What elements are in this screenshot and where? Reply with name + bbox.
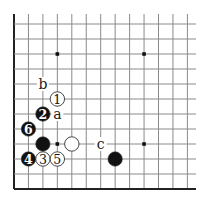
- letter-mark-a: a: [51, 106, 63, 122]
- move-number-label: 6: [24, 122, 33, 137]
- move-number-label: 2: [39, 107, 48, 122]
- black-stone-4: 4: [21, 152, 35, 167]
- go-board-diagram: abc 123456: [0, 0, 206, 206]
- letter-mark-b: b: [37, 76, 49, 92]
- letter-mark-label: c: [97, 136, 105, 152]
- move-number-label: 1: [53, 92, 61, 107]
- black-stone-2: 2: [36, 107, 50, 122]
- move-number-label: 4: [24, 152, 33, 167]
- stone-circle-icon: [36, 137, 50, 151]
- letter-mark-label: a: [53, 106, 61, 122]
- star-point-icon: [56, 142, 60, 146]
- move-number-label: 3: [39, 152, 47, 167]
- letter-mark-label: b: [38, 76, 47, 92]
- white-stone-3: 3: [36, 152, 50, 167]
- star-point-icon: [56, 52, 60, 56]
- stone-circle-icon: [65, 137, 79, 151]
- stone-circle-icon: [108, 152, 122, 166]
- star-point-icon: [142, 142, 146, 146]
- black-stone-6: 6: [21, 122, 35, 137]
- black-stone: [108, 152, 122, 166]
- black-stone: [36, 137, 50, 151]
- white-stone: [65, 137, 79, 151]
- star-point-icon: [142, 52, 146, 56]
- white-stone-5: 5: [50, 152, 64, 167]
- letter-mark-c: c: [95, 136, 107, 152]
- white-stone-1: 1: [50, 92, 64, 107]
- move-number-label: 5: [53, 152, 61, 167]
